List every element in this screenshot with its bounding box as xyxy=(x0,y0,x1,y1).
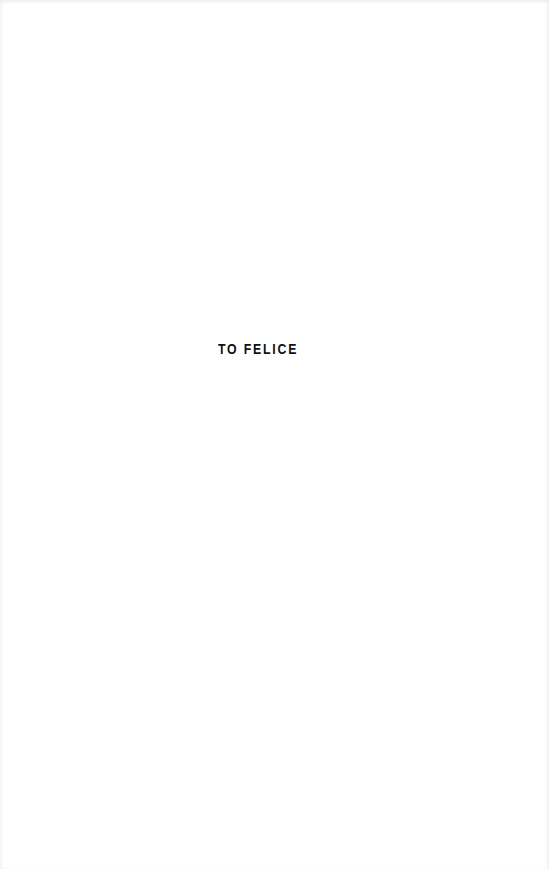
book-page: TO FELICE xyxy=(0,0,549,869)
dedication-text: TO FELICE xyxy=(218,340,298,357)
